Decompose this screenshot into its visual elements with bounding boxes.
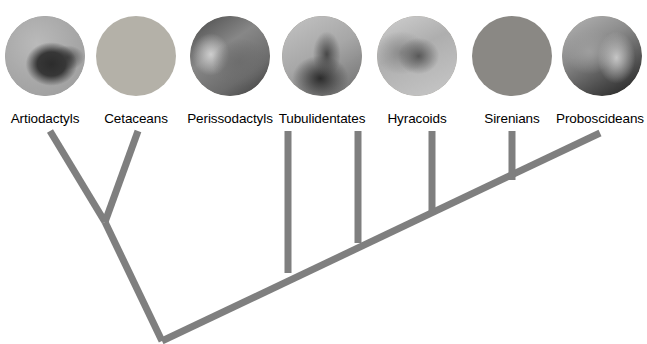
branch-cetartiodactyla-stem <box>105 222 162 341</box>
rhinoceros-photo <box>190 16 270 96</box>
taxon-label-sirenians: Sirenians <box>484 112 539 126</box>
hyrax-photo <box>377 16 457 96</box>
taxon-label-artiodactyls: Artiodactyls <box>11 112 80 126</box>
taxon-label-proboscideans: Proboscideans <box>556 112 644 126</box>
manatee-photo <box>472 16 552 96</box>
taxon-label-tubulidentates: Tubulidentates <box>279 112 366 126</box>
branch-cetaceans <box>105 131 138 222</box>
taxon-photo-perissodactyls <box>190 16 270 96</box>
taxon-photo-tubulidentates <box>282 16 362 96</box>
taxon-photo-artiodactyls <box>5 16 85 96</box>
taxon-label-perissodactyls: Perissodactyls <box>187 112 273 126</box>
branch-artiodactyls <box>50 131 105 222</box>
camel-head-photo <box>5 16 85 96</box>
taxon-label-cetaceans: Cetaceans <box>104 112 168 126</box>
taxon-photo-cetaceans <box>96 16 176 96</box>
taxon-photo-proboscideans <box>562 16 642 96</box>
taxon-photo-hyracoids <box>377 16 457 96</box>
taxon-label-hyracoids: Hyracoids <box>387 112 446 126</box>
phylogenetic-tree-figure: ArtiodactylsCetaceansPerissodactylsTubul… <box>0 0 647 344</box>
elephant-photo <box>562 16 642 96</box>
branch-group <box>50 131 600 341</box>
branch-spine <box>162 133 600 341</box>
dolphin-head-photo <box>96 16 176 96</box>
aardvark-photo <box>282 16 362 96</box>
taxon-photo-sirenians <box>472 16 552 96</box>
